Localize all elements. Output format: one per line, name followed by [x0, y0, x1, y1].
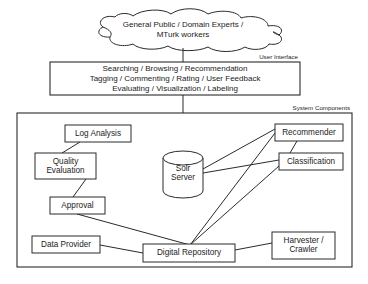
edge-quality-evaluation-approval	[73, 179, 86, 197]
node-actors-cloud[interactable]	[95, 12, 285, 50]
node-solr-server[interactable]	[163, 151, 203, 198]
node-classification[interactable]	[279, 153, 343, 170]
edge-data-provider-digital-repository	[100, 245, 143, 253]
user-interface-group-box	[50, 62, 300, 95]
node-recommender[interactable]	[275, 124, 343, 141]
node-data-provider[interactable]	[32, 236, 100, 253]
node-approval[interactable]	[50, 197, 105, 214]
diagram-canvas: General Public / Domain Experts / MTurk …	[0, 0, 368, 284]
edge-solr-server-classification	[203, 160, 279, 173]
node-log-analysis[interactable]	[65, 125, 131, 142]
node-harvester-crawler[interactable]	[272, 232, 335, 259]
node-digital-repository[interactable]	[143, 244, 235, 262]
edge-log-analysis-quality-evaluation	[62, 142, 80, 153]
edge-recommender-classification	[290, 141, 297, 153]
edge-digital-repository-harvester-crawler	[235, 243, 272, 250]
node-quality-evaluation[interactable]	[35, 153, 96, 179]
